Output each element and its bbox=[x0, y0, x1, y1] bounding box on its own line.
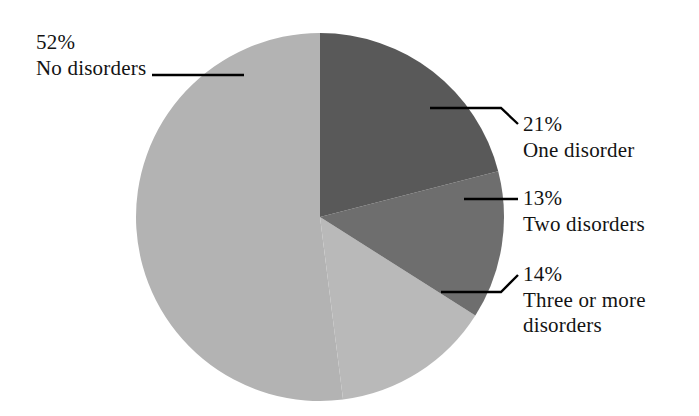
slice-percent-one-disorder: 21% bbox=[523, 112, 634, 138]
slice-label-one-disorder: 21% One disorder bbox=[523, 112, 634, 163]
slice-label-no-disorders: 52% No disorders bbox=[36, 30, 146, 81]
pie-slice-no-disorders[interactable] bbox=[136, 33, 343, 401]
slice-percent-no-disorders: 52% bbox=[36, 30, 146, 56]
slice-name-two-disorders: Two disorders bbox=[523, 212, 645, 238]
slice-name-no-disorders: No disorders bbox=[36, 56, 146, 82]
slice-name-three-or-more-disorders: Three or more disorders bbox=[523, 288, 699, 339]
pie-chart: 52% No disorders 21% One disorder 13% Tw… bbox=[0, 0, 699, 416]
slice-label-three-or-more-disorders: 14% Three or more disorders bbox=[523, 262, 699, 339]
slice-name-one-disorder: One disorder bbox=[523, 138, 634, 164]
slice-percent-three-or-more-disorders: 14% bbox=[523, 262, 699, 288]
slice-percent-two-disorders: 13% bbox=[523, 186, 645, 212]
slice-label-two-disorders: 13% Two disorders bbox=[523, 186, 645, 237]
